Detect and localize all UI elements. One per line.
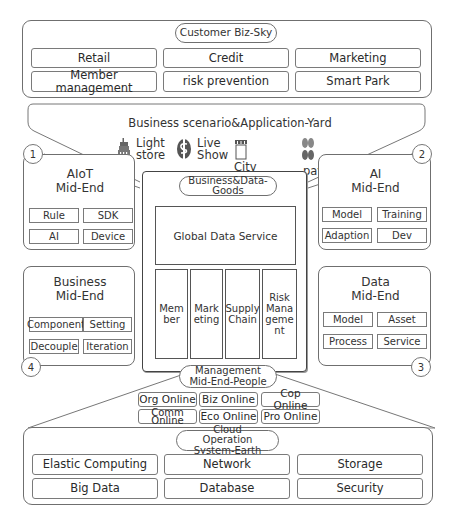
management-item-org-online: Org Online — [138, 392, 197, 407]
business-title: BusinessMid-End — [24, 275, 136, 304]
goods-title: Business&Data-Goods — [179, 176, 277, 196]
business-item-setting: Setting — [83, 317, 132, 332]
cloud-operation-earth-panel: Cloud Operation System-Earth Elastic Com… — [23, 427, 433, 505]
earth-item-database: Database — [164, 478, 290, 499]
marker-2: 2 — [412, 144, 432, 164]
aiot-item-device: Device — [83, 229, 133, 244]
marker-3: 3 — [411, 357, 431, 377]
data-mid-title-line1: Data — [361, 275, 390, 289]
ai-title-line2: Mid-End — [351, 181, 399, 195]
aiot-item-ai: AI — [29, 229, 79, 244]
aiot-title-line2: Mid-End — [56, 181, 104, 195]
sky-title: Customer Biz-Sky — [175, 23, 277, 43]
aiot-item-sdk: SDK — [83, 208, 133, 223]
goods-column-risk-management-label: Risk Management — [264, 292, 295, 336]
management-item-pro-online: Pro Online — [261, 409, 320, 424]
business-item-decouple: Decouple — [29, 339, 79, 354]
management-item-comm-online: Comm Online — [138, 409, 197, 424]
business-item-component: Component — [29, 317, 83, 332]
marker-1: 1 — [23, 144, 43, 164]
earth-item-storage: Storage — [297, 454, 423, 475]
sky-item-marketing: Marketing — [295, 48, 421, 68]
app-label-live-show: LiveShow — [197, 137, 228, 161]
earth-item-security: Security — [297, 478, 423, 499]
data-mid-item-service: Service — [377, 334, 427, 349]
ai-title-line1: AI — [370, 167, 382, 181]
data-mid-item-model: Model — [323, 312, 373, 327]
global-data-service-box: Global Data Service — [155, 206, 296, 265]
business-item-iteration: Iteration — [83, 339, 132, 354]
business-data-goods-panel: Business&Data-Goods Global Data Service … — [142, 171, 307, 372]
goods-column-supply-chain-label: Supply Chain — [225, 303, 259, 325]
yard-title: Business scenario&Application-Yard — [120, 116, 340, 130]
goods-column-member-label: Member — [157, 303, 186, 325]
globe-dollar-icon — [176, 137, 192, 161]
sky-item-risk-prevention: risk prevention — [163, 71, 289, 92]
app-label-line2: Show — [197, 148, 228, 162]
sky-item-retail: Retail — [31, 48, 157, 68]
management-item-eco-online: Eco Online — [199, 409, 258, 424]
earth-item-network: Network — [164, 454, 290, 475]
management-item-biz-online: Biz Online — [199, 392, 258, 407]
data-mid-end-panel: DataMid-End Model Asset Process Service — [318, 266, 431, 366]
sky-item-smart-park: Smart Park — [295, 71, 421, 92]
storefront-icon — [234, 137, 248, 161]
goods-column-risk-management: Risk Management — [262, 269, 297, 359]
payment-icon — [301, 137, 315, 161]
app-label-light-store: Lightstore — [136, 137, 165, 161]
aiot-mid-end-panel: AIoTMid-End Rule SDK AI Device — [23, 154, 135, 250]
data-mid-title-line2: Mid-End — [351, 289, 399, 303]
ai-item-adaption: Adaption — [322, 228, 372, 243]
business-title-line2: Mid-End — [56, 289, 104, 303]
earth-title: Cloud Operation System-Earth — [176, 430, 279, 451]
goods-column-marketing-label: Marketing — [192, 303, 221, 325]
goods-column-supply-chain: Supply Chain — [225, 269, 260, 359]
customer-biz-sky-panel: Customer Biz-Sky Retail Credit Marketing… — [22, 20, 432, 98]
goods-column-marketing: Marketing — [190, 269, 223, 359]
data-mid-item-asset: Asset — [377, 312, 427, 327]
goods-column-member: Member — [155, 269, 188, 359]
business-mid-end-panel: BusinessMid-End Component Setting Decoup… — [23, 266, 135, 366]
app-label-line2: store — [136, 148, 165, 162]
ai-item-dev: Dev — [377, 228, 427, 243]
data-mid-title: DataMid-End — [319, 275, 432, 304]
global-data-service-label: Global Data Service — [173, 230, 277, 242]
business-title-line1: Business — [54, 275, 107, 289]
sky-item-member-management: Member management — [31, 71, 157, 92]
management-item-cop-online: Cop Online — [261, 392, 320, 407]
app-live-show: LiveShow — [176, 137, 231, 163]
sky-item-credit: Credit — [163, 48, 289, 68]
earth-item-elastic-computing: Elastic Computing — [32, 454, 158, 475]
aiot-title: AIoTMid-End — [24, 167, 136, 196]
data-mid-item-process: Process — [323, 334, 373, 349]
aiot-title-line1: AIoT — [67, 167, 93, 181]
management-title: Management Mid-End-People — [179, 365, 277, 388]
ai-mid-end-panel: AIMid-End Model Training Adaption Dev — [318, 154, 431, 250]
aiot-item-rule: Rule — [29, 208, 79, 223]
earth-item-big-data: Big Data — [32, 478, 158, 499]
ai-item-model: Model — [322, 207, 372, 222]
ai-title: AIMid-End — [319, 167, 432, 196]
app-city-shopping: CityShopping — [234, 137, 304, 163]
ai-item-training: Training — [377, 207, 427, 222]
marker-4: 4 — [21, 357, 41, 377]
